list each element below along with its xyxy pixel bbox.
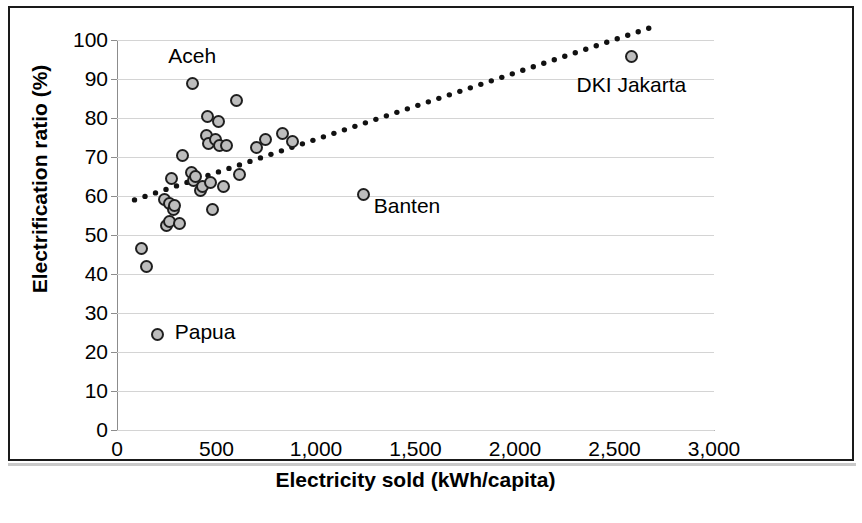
trendline-dot <box>331 131 336 136</box>
annotation-aceh: Aceh <box>168 44 216 68</box>
y-axis-tick-label: 100 <box>73 28 108 52</box>
gridline <box>117 313 714 314</box>
trendline-dot <box>436 96 441 101</box>
figure-frame-shadow <box>8 463 856 466</box>
y-axis-tick <box>111 40 117 41</box>
trendline-dot <box>153 190 158 195</box>
y-axis-tick <box>111 352 117 353</box>
trendline-dot <box>405 106 410 111</box>
trendline-dot <box>552 57 557 62</box>
trendline-dot <box>415 103 420 108</box>
annotation-dki-jakarta: DKI Jakarta <box>577 73 687 97</box>
y-axis-tick <box>111 196 117 197</box>
y-axis-tick <box>111 313 117 314</box>
trendline-dot <box>457 89 462 94</box>
trendline-dot <box>447 92 452 97</box>
y-axis-tick-label: 60 <box>85 184 108 208</box>
gridline <box>117 40 714 41</box>
trendline-dot <box>531 64 536 69</box>
y-axis-tick <box>111 274 117 275</box>
y-axis-tick <box>111 118 117 119</box>
x-axis-tick-label: 1,000 <box>290 437 343 461</box>
x-axis-tick-label: 500 <box>199 437 234 461</box>
trendline-dot <box>426 99 431 104</box>
trendline-dot <box>300 141 305 146</box>
data-point <box>135 242 148 255</box>
trendline-dot <box>520 68 525 73</box>
data-point <box>259 133 272 146</box>
plot-area: AcehPapuaBantenDKI Jakarta <box>117 40 714 430</box>
trendline-dot <box>468 85 473 90</box>
annotation-banten: Banten <box>374 194 441 218</box>
data-point-dki-jakarta <box>625 50 638 63</box>
y-axis-title: Electrification ratio (%) <box>28 34 52 324</box>
gridline <box>117 274 714 275</box>
x-axis-tick-label: 2,000 <box>489 437 542 461</box>
y-axis-tick-label: 90 <box>85 67 108 91</box>
data-point <box>220 139 233 152</box>
y-axis-tick-label: 0 <box>96 418 108 442</box>
y-axis-tick <box>111 157 117 158</box>
y-axis-tick <box>111 430 117 431</box>
gridline <box>117 235 714 236</box>
data-point <box>212 115 225 128</box>
trendline-dot <box>226 166 231 171</box>
data-point <box>217 180 230 193</box>
trendline-dot <box>478 82 483 87</box>
trendline-dot <box>594 43 599 48</box>
trendline-dot <box>562 54 567 59</box>
data-point-papua <box>151 328 164 341</box>
gridline <box>117 157 714 158</box>
gridline <box>117 352 714 353</box>
x-axis-tick-label: 2,500 <box>588 437 641 461</box>
trendline-dot <box>583 47 588 52</box>
trendline-dot <box>342 127 347 132</box>
trendline-dot <box>321 134 326 139</box>
trendline-dot <box>247 159 252 164</box>
trendline-dot <box>541 61 546 66</box>
data-point <box>173 217 186 230</box>
data-point <box>165 172 178 185</box>
trendline-dot <box>352 124 357 129</box>
x-axis-tick-label: 0 <box>111 437 123 461</box>
y-axis-tick <box>111 391 117 392</box>
trendline-dot <box>363 120 368 125</box>
data-point-banten <box>357 188 370 201</box>
trendline-dot <box>132 197 137 202</box>
trendline-dot <box>510 71 515 76</box>
y-axis-tick-label: 70 <box>85 145 108 169</box>
data-point <box>206 203 219 216</box>
y-axis-tick-label: 50 <box>85 223 108 247</box>
data-point <box>140 260 153 273</box>
gridline <box>117 430 714 431</box>
trendline-dot <box>394 110 399 115</box>
y-axis-tick-label: 30 <box>85 301 108 325</box>
y-axis-tick-label: 80 <box>85 106 108 130</box>
x-axis-title: Electricity sold (kWh/capita) <box>117 468 714 492</box>
data-point <box>230 94 243 107</box>
trendline-dot <box>573 50 578 55</box>
trendline-dot <box>163 187 168 192</box>
chart-figure: 0102030405060708090100 Electrification r… <box>0 0 862 523</box>
y-axis-tick <box>111 79 117 80</box>
y-axis-tick-label: 20 <box>85 340 108 364</box>
y-axis-tick-label: 40 <box>85 262 108 286</box>
data-point <box>286 135 299 148</box>
annotation-papua: Papua <box>175 320 236 344</box>
trendline-dot <box>279 148 284 153</box>
x-axis-tick-label: 3,000 <box>688 437 741 461</box>
y-axis-tick-label: 10 <box>85 379 108 403</box>
trendline-dot <box>310 138 315 143</box>
data-point <box>204 176 217 189</box>
trendline-dot <box>237 162 242 167</box>
y-axis-tick <box>111 235 117 236</box>
x-axis-tick-label: 1,500 <box>389 437 442 461</box>
trendline-dot <box>216 169 221 174</box>
gridline <box>117 391 714 392</box>
data-point <box>176 149 189 162</box>
data-point <box>233 168 246 181</box>
data-point-aceh <box>186 77 199 90</box>
